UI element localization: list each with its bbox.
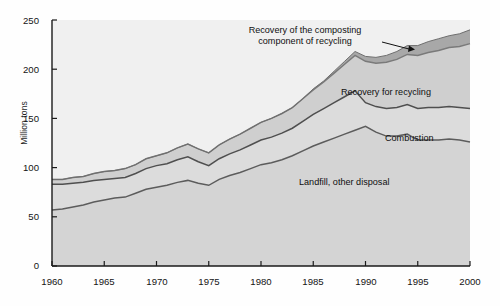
x-tick-label-1995: 1995 [398,276,438,287]
y-tick-label-200: 200 [9,64,39,75]
composting-annotation-line1: Recovery of the composting [225,25,385,36]
composting-annotation: Recovery of the composting component of … [225,25,385,48]
x-tick-label-1960: 1960 [32,276,72,287]
x-tick-label-1970: 1970 [137,276,177,287]
y-tick-label-100: 100 [9,162,39,173]
x-tick-label-2000: 2000 [450,276,490,287]
composting-annotation-line2: component of recycling [225,36,385,47]
landfill-annotation: Landfill, other disposal [299,177,390,188]
x-tick-label-1975: 1975 [189,276,229,287]
y-tick-label-250: 250 [9,15,39,26]
x-tick-label-1980: 1980 [241,276,281,287]
y-tick-label-0: 0 [9,260,39,271]
x-tick-label-1965: 1965 [84,276,124,287]
x-tick-label-1985: 1985 [293,276,333,287]
y-tick-label-150: 150 [9,113,39,124]
recycling-annotation: Recovery for recycling [341,87,431,98]
combustion-annotation: Combustion [385,133,434,144]
chart-figure: Million tons 250 200 150 100 50 0 1960 1… [0,0,500,306]
x-tick-label-1990: 1990 [346,276,386,287]
y-tick-label-50: 50 [9,211,39,222]
